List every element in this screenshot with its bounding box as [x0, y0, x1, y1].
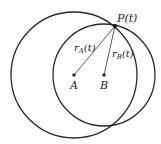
diagram-canvas: P(t) A B rA(t) rB(t) — [0, 0, 161, 144]
label-rb: rB(t) — [112, 48, 134, 61]
point-b — [102, 73, 106, 77]
label-p: P(t) — [116, 12, 137, 25]
label-a: A — [69, 79, 78, 92]
point-a — [72, 73, 76, 77]
label-b: B — [99, 79, 108, 92]
